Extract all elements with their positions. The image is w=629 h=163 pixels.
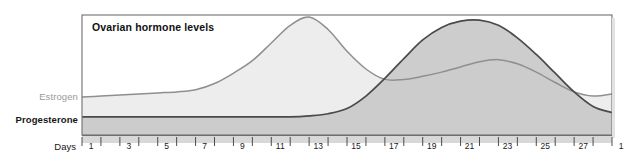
x-tick-label: 23 <box>503 141 512 151</box>
x-tick-label: 25 <box>541 141 550 151</box>
x-tick-label: 1 <box>619 141 624 151</box>
x-tick-label: 7 <box>202 141 207 151</box>
plot-shadow-right <box>612 18 615 138</box>
x-tick-label: 19 <box>427 141 436 151</box>
x-tick-label: 9 <box>240 141 245 151</box>
x-tick-label: 11 <box>276 141 285 151</box>
x-tick-label: 3 <box>126 141 131 151</box>
x-tick-label: 17 <box>389 141 398 151</box>
ovarian-hormone-chart-figure: Ovarian hormone levels Estrogen Progeste… <box>0 0 629 163</box>
page-title: Ovarian hormone levels <box>92 21 214 33</box>
x-tick-label: 21 <box>465 141 474 151</box>
estrogen-series-label: Estrogen <box>0 91 78 102</box>
x-tick-label: 5 <box>164 141 169 151</box>
x-axis-title: Days <box>0 141 76 152</box>
x-tick-label: 1 <box>89 141 94 151</box>
x-tick-label: 15 <box>351 141 360 151</box>
progesterone-series-label: Progesterone <box>0 114 78 125</box>
x-tick-label: 13 <box>313 141 322 151</box>
x-tick-label: 27 <box>578 141 587 151</box>
